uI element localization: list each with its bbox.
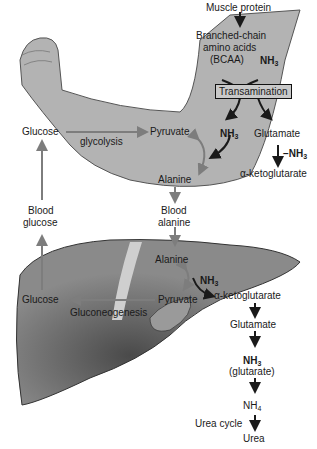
urea-label: Urea <box>243 433 265 444</box>
muscle-protein-label: Muscle protein <box>206 2 271 13</box>
bcaa-label-2: amino acids <box>203 42 256 53</box>
glutarate-label: (glutarate) <box>229 366 275 377</box>
muscle-glutamate-label: Glutamate <box>254 128 300 139</box>
liver-nh3-label: NH3 <box>200 275 218 289</box>
glycolysis-label: glycolysis <box>80 136 123 147</box>
blood-glucose-label-2: glucose <box>23 217 57 228</box>
blood-alanine-label-2: alanine <box>158 217 190 228</box>
urea-cycle-label: Urea cycle <box>195 418 242 429</box>
liver-glutamate-label: Glutamate <box>230 319 276 330</box>
muscle-glucose-label: Glucose <box>22 126 59 137</box>
liver-glucose-label: Glucose <box>22 294 59 305</box>
bcaa-label-3: (BCAA) <box>210 54 244 65</box>
nh4-label: NH4 <box>243 400 261 414</box>
muscle-alpha-kg-label: α-ketoglutarate <box>240 168 307 179</box>
muscle-pyruvate-label: Pyruvate <box>150 126 189 137</box>
nh3-mid-label: NH3 <box>220 128 238 142</box>
muscle-alanine-label: Alanine <box>158 174 191 185</box>
blood-glucose-label-1: Blood <box>28 205 54 216</box>
liver-pyruvate-label: Pyruvate <box>158 294 197 305</box>
transamination-box: Transamination <box>215 84 292 99</box>
gluconeogenesis-label: Gluconeogenesis <box>70 307 147 318</box>
bcaa-label-1: Branched-chain <box>196 30 266 41</box>
nh3-top-label: NH3 <box>260 55 278 69</box>
liver-alanine-label: Alanine <box>155 254 188 265</box>
blood-alanine-label-1: Blood <box>161 205 187 216</box>
liver-alpha-kg-label: α-ketoglutarate <box>214 290 281 301</box>
minus-nh3-label: −NH3 <box>283 148 307 162</box>
